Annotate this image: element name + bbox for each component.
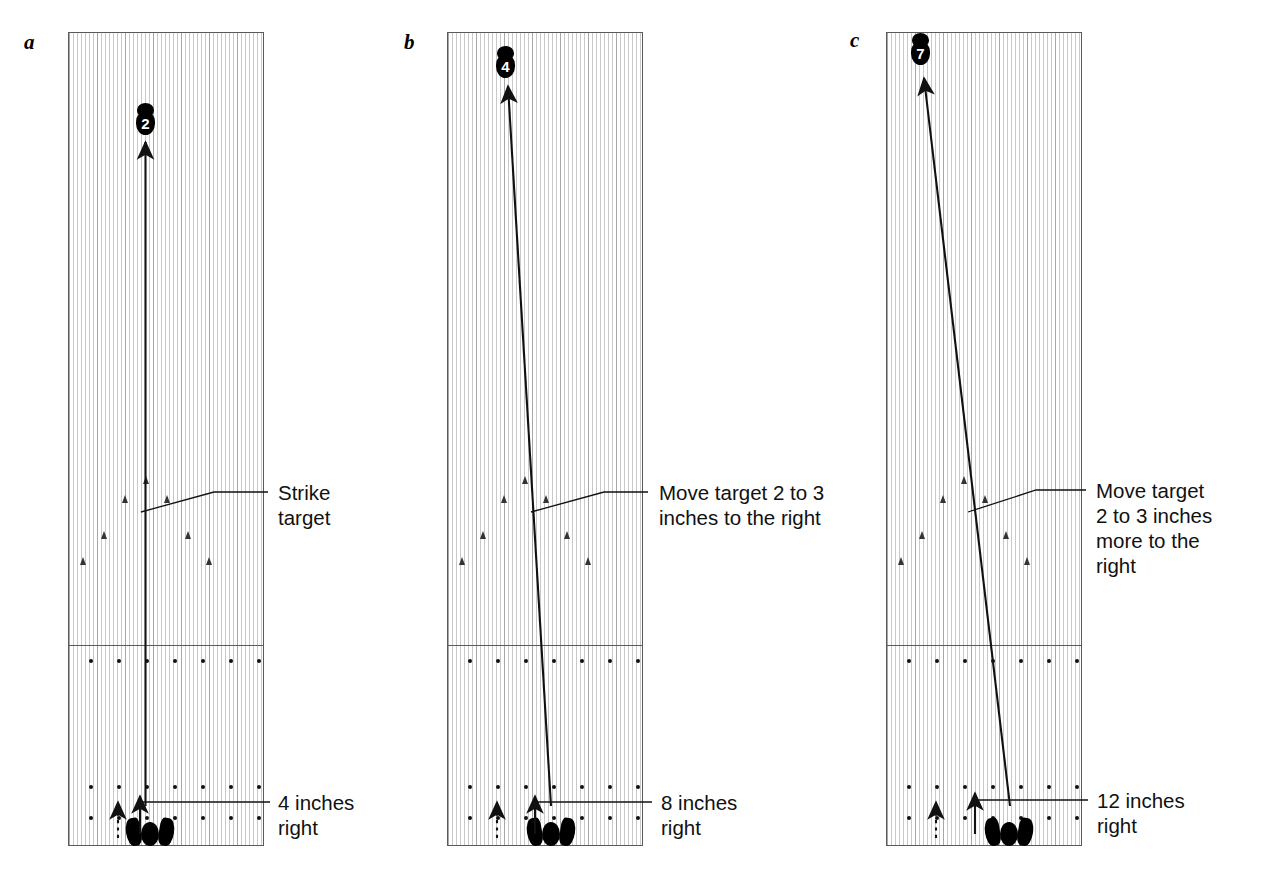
approach-dot-r2-c4 — [173, 785, 177, 789]
approach-dot-r2-c5 — [201, 785, 205, 789]
approach-dot-r2-c7 — [636, 785, 640, 789]
approach-dot-r1-c1 — [907, 659, 911, 663]
approach-dot-r1-c3 — [963, 659, 967, 663]
target-number-b: 4 — [496, 55, 515, 78]
foul-line-a — [69, 645, 263, 646]
approach-dot-r2-c6 — [229, 785, 233, 789]
lane-panel-b — [447, 32, 643, 846]
foul-line-c — [887, 645, 1081, 646]
approach-dot-r1-c4 — [991, 659, 995, 663]
callout-stance-c: 12 inches right — [1097, 788, 1185, 838]
lane-panel-a — [68, 32, 264, 846]
lane-aiming-arrow-4 — [101, 531, 107, 539]
approach-dot-r3-c6 — [608, 816, 612, 820]
approach-dot-r2-c7 — [1075, 785, 1079, 789]
approach-dot-r2-c1 — [89, 785, 93, 789]
approach-dot-r1-c1 — [468, 659, 472, 663]
approach-dot-r1-c4 — [173, 659, 177, 663]
lane-panel-c — [886, 32, 1082, 846]
lane-aiming-arrow-2 — [501, 495, 507, 503]
approach-dot-r1-c7 — [636, 659, 640, 663]
target-number-c: 7 — [911, 42, 930, 65]
approach-dot-r2-c7 — [257, 785, 261, 789]
approach-dot-r2-c5 — [1019, 785, 1023, 789]
lane-aiming-arrow-1 — [522, 476, 528, 484]
bowling-ball-icon — [1000, 822, 1018, 846]
bowler-right-foot-icon — [157, 817, 176, 847]
approach-dot-r3-c1 — [89, 816, 93, 820]
foul-line-b — [448, 645, 642, 646]
approach-dot-r1-c6 — [608, 659, 612, 663]
lane-aiming-arrow-7 — [206, 557, 212, 565]
callout-stance-a: 4 inches right — [278, 790, 354, 840]
strike-target-marker-b: 4 — [496, 46, 515, 78]
approach-dot-r3-c2 — [935, 816, 939, 820]
approach-dot-r3-c1 — [907, 816, 911, 820]
approach-dot-r2-c3 — [524, 785, 528, 789]
approach-dot-r3-c2 — [117, 816, 121, 820]
approach-dot-r3-c5 — [201, 816, 205, 820]
lane-aiming-arrow-7 — [1024, 557, 1030, 565]
bowling-adjustment-figure: a b c 2 4 7 — [0, 0, 1264, 885]
approach-dot-r2-c4 — [991, 785, 995, 789]
lane-boards-b — [448, 33, 642, 845]
bowler-stance-b — [527, 812, 575, 846]
approach-dot-r2-c4 — [552, 785, 556, 789]
approach-dot-r3-c7 — [257, 816, 261, 820]
bowling-ball-icon — [542, 822, 560, 846]
callout-stance-b: 8 inches right — [661, 790, 737, 840]
lane-aiming-arrow-4 — [480, 531, 486, 539]
approach-dot-r3-c6 — [1047, 816, 1051, 820]
bowler-right-foot-icon — [558, 817, 577, 847]
approach-dot-r3-c7 — [1075, 816, 1079, 820]
approach-dot-r3-c5 — [580, 816, 584, 820]
panel-letter-a: a — [24, 32, 35, 53]
approach-dot-r1-c5 — [580, 659, 584, 663]
approach-dot-r2-c6 — [1047, 785, 1051, 789]
approach-dot-r1-c5 — [201, 659, 205, 663]
lane-aiming-arrow-3 — [982, 495, 988, 503]
lane-aiming-arrow-2 — [940, 495, 946, 503]
approach-dot-r3-c6 — [229, 816, 233, 820]
panel-letter-c: c — [850, 30, 859, 51]
lane-aiming-arrow-3 — [164, 495, 170, 503]
approach-dot-r2-c6 — [608, 785, 612, 789]
lane-aiming-arrow-5 — [185, 531, 191, 539]
approach-dot-r1-c3 — [524, 659, 528, 663]
lane-aiming-arrow-5 — [564, 531, 570, 539]
lane-aiming-arrow-5 — [1003, 531, 1009, 539]
callout-target-b: Move target 2 to 3 inches to the right — [659, 480, 824, 530]
callout-target-c: Move target 2 to 3 inches more to the ri… — [1096, 478, 1212, 578]
bowler-stance-a — [126, 812, 174, 846]
approach-dot-r1-c2 — [496, 659, 500, 663]
lane-aiming-arrow-4 — [919, 531, 925, 539]
lane-aiming-arrow-2 — [122, 495, 128, 503]
approach-dot-r1-c3 — [145, 659, 149, 663]
strike-target-marker-c: 7 — [911, 33, 930, 65]
approach-dot-r1-c4 — [552, 659, 556, 663]
lane-aiming-arrow-3 — [543, 495, 549, 503]
bowler-right-foot-icon — [1016, 817, 1035, 847]
approach-dot-r2-c3 — [145, 785, 149, 789]
lane-boards-a — [69, 33, 263, 845]
lane-aiming-arrow-7 — [585, 557, 591, 565]
target-number-a: 2 — [136, 112, 155, 135]
approach-dot-r1-c7 — [1075, 659, 1079, 663]
lane-aiming-arrow-6 — [459, 557, 465, 565]
strike-target-marker-a: 2 — [136, 103, 155, 135]
approach-dot-r3-c2 — [496, 816, 500, 820]
lane-aiming-arrow-1 — [961, 476, 967, 484]
approach-dot-r1-c1 — [89, 659, 93, 663]
approach-dot-r2-c3 — [963, 785, 967, 789]
approach-dot-r1-c2 — [117, 659, 121, 663]
bowler-stance-c — [985, 812, 1033, 846]
lane-aiming-arrow-6 — [898, 557, 904, 565]
approach-dot-r2-c1 — [468, 785, 472, 789]
approach-dot-r1-c2 — [935, 659, 939, 663]
panel-letter-b: b — [404, 32, 415, 53]
approach-dot-r1-c5 — [1019, 659, 1023, 663]
approach-dot-r3-c3 — [963, 816, 967, 820]
approach-dot-r1-c6 — [1047, 659, 1051, 663]
callout-target-a: Strike target — [278, 480, 330, 530]
lane-boards-c — [887, 33, 1081, 845]
